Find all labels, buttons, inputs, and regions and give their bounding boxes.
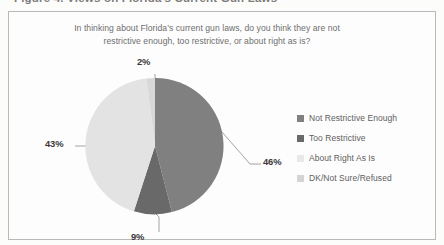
legend-item-label: About Right As Is <box>309 153 375 163</box>
legend-item-not-restrictive-enough[interactable]: Not Restrictive Enough <box>297 108 437 128</box>
legend-swatch-icon <box>297 175 304 182</box>
legend-item-label: Not Restrictive Enough <box>309 113 397 123</box>
legend-item-label: Too Restrictive <box>309 133 366 143</box>
pie-label-not-restrictive-enough: 46% <box>263 156 281 167</box>
pie-label-about-right: 43% <box>45 138 63 149</box>
legend-item-label: DK/Not Sure/Refused <box>309 173 392 183</box>
chart-frame: In thinking about Florida’s current gun … <box>8 11 436 240</box>
pie-slices <box>85 78 223 214</box>
leader-line-not-restrictive-enough <box>222 132 261 164</box>
legend-swatch-icon <box>297 155 304 162</box>
chart-legend: Not Restrictive Enough Too Restrictive A… <box>297 108 437 188</box>
figure-caption-strip: Figure 4. Views on Florida's Current Gun… <box>0 0 444 9</box>
legend-item-about-right[interactable]: About Right As Is <box>297 148 437 168</box>
legend-swatch-icon <box>297 135 304 142</box>
pie-label-dk-not-sure: 2% <box>137 56 150 67</box>
figure-caption-text: Figure 4. Views on Florida's Current Gun… <box>14 0 277 4</box>
legend-item-dk-not-sure[interactable]: DK/Not Sure/Refused <box>297 168 437 188</box>
legend-item-too-restrictive[interactable]: Too Restrictive <box>297 128 437 148</box>
pie-label-too-restrictive: 9% <box>131 231 144 242</box>
legend-swatch-icon <box>297 115 304 122</box>
